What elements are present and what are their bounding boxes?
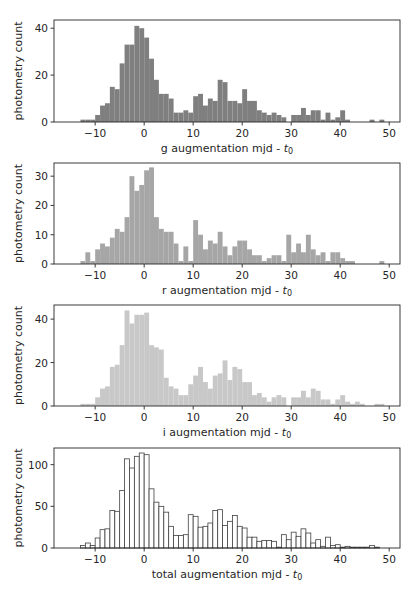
bar (139, 453, 144, 548)
bar (174, 536, 179, 549)
bar (242, 528, 247, 548)
x-tick-label: 20 (236, 553, 249, 565)
y-tick-label: 30 (35, 170, 48, 182)
bar (164, 94, 169, 122)
x-tick-label: 50 (383, 553, 396, 565)
bar (272, 113, 277, 122)
y-tick-label: 0 (41, 116, 48, 128)
bar (110, 367, 115, 406)
bar (213, 244, 218, 264)
bar (296, 397, 301, 406)
x-tick-label: 10 (186, 553, 199, 565)
x-tick-label: 50 (383, 269, 396, 281)
bar (110, 87, 115, 122)
bar (85, 543, 90, 548)
bar (316, 540, 321, 548)
bar (125, 459, 130, 548)
bar (120, 345, 125, 406)
bar (252, 255, 257, 264)
bar (326, 537, 331, 548)
bar (134, 191, 139, 264)
bar (311, 110, 316, 122)
bar (223, 526, 228, 549)
bar (242, 241, 247, 264)
x-tick-label: 50 (383, 411, 396, 423)
bar (105, 103, 110, 122)
bar (340, 258, 345, 264)
bar (223, 360, 228, 406)
bar (129, 45, 134, 122)
bar (144, 38, 149, 122)
bar (262, 397, 267, 406)
bar (247, 537, 252, 548)
bar (326, 399, 331, 406)
bar (311, 543, 316, 548)
bar (218, 232, 223, 264)
bar (213, 511, 218, 549)
bar (169, 232, 174, 264)
bar (286, 235, 291, 264)
bar (203, 382, 208, 406)
bar (139, 28, 144, 122)
bar (208, 99, 213, 122)
bar (183, 535, 188, 548)
y-tick-label: 20 (35, 69, 48, 81)
bar (115, 511, 120, 548)
bar (335, 545, 340, 548)
bar (218, 80, 223, 122)
x-tick-label: 10 (186, 269, 199, 281)
bar (95, 397, 100, 406)
bar (355, 402, 360, 406)
bar (267, 402, 272, 406)
y-tick-label: 100 (28, 459, 48, 471)
bar (174, 113, 179, 122)
bar (335, 117, 340, 122)
bar (203, 526, 208, 548)
x-tick-label: −10 (84, 269, 106, 281)
bar (227, 521, 232, 548)
x-tick-label: 30 (285, 269, 298, 281)
bar (281, 535, 286, 548)
bar (301, 108, 306, 122)
bar (134, 456, 139, 548)
x-tick-label: 0 (141, 553, 148, 565)
bar (247, 249, 252, 264)
bar (144, 313, 149, 406)
x-axis-label: r augmentation mjd - t0 (162, 284, 292, 298)
bar (242, 89, 247, 122)
x-tick-label: 30 (285, 411, 298, 423)
x-tick-label: 40 (334, 553, 347, 565)
bar (120, 491, 125, 549)
bar (193, 376, 198, 406)
bar (100, 389, 105, 406)
bar (154, 80, 159, 122)
bar (149, 345, 154, 406)
bar (247, 382, 252, 406)
bar (301, 391, 306, 406)
x-tick-label: 50 (383, 127, 396, 139)
panel-total: −1001020304050050100total augmentation m… (12, 448, 400, 582)
bar (306, 533, 311, 548)
bar (232, 246, 237, 264)
bar (316, 391, 321, 406)
bars-total (80, 453, 379, 548)
bar (115, 89, 120, 122)
bar (95, 115, 100, 122)
bar (272, 397, 277, 406)
bar (169, 526, 174, 548)
bar (272, 255, 277, 264)
bar (100, 244, 105, 264)
y-tick-label: 0 (41, 542, 48, 554)
bar (110, 511, 115, 549)
y-tick-label: 40 (35, 22, 48, 34)
bar (340, 395, 345, 406)
bar (193, 96, 198, 122)
bar (262, 541, 267, 549)
bar (134, 315, 139, 406)
bar (257, 255, 262, 264)
bar (262, 113, 267, 122)
bar (208, 523, 213, 548)
bar (129, 323, 134, 406)
bar (188, 515, 193, 548)
bars-g (80, 26, 384, 122)
